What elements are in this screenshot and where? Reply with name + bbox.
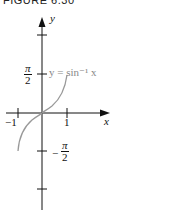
minus-sign: − <box>52 147 58 159</box>
y-axis-label: y <box>50 12 55 24</box>
tick-label-neg1: −1 <box>5 116 17 128</box>
tick-label-1: 1 <box>64 116 70 128</box>
curve-equation-label: y = sin⁻¹ x <box>49 66 97 79</box>
tick-label-pi-over-2: π 2 <box>24 63 32 86</box>
inverse-sine-graph <box>0 0 171 210</box>
tick-label-neg-pi-over-2: π 2 <box>61 140 69 163</box>
x-axis-label: x <box>104 115 109 127</box>
y-axis-arrow-icon <box>39 17 46 27</box>
